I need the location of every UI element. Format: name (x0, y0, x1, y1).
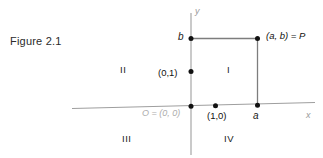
quadrant-label-ii: II (120, 65, 126, 75)
foot-a-label: a (253, 111, 259, 121)
point-unit-y (189, 69, 194, 74)
y-axis-label: y (195, 7, 200, 16)
point-foot-a (255, 103, 260, 108)
quadrant-label-i: I (227, 65, 230, 75)
x-axis-label: x (306, 111, 311, 120)
point-p-label: (a, b) = P (266, 31, 305, 41)
point-p (255, 36, 260, 41)
point-unit-x (213, 103, 218, 108)
point-origin (189, 104, 194, 109)
unit-x-point-label: (1,0) (207, 111, 227, 121)
point-foot-b (189, 36, 194, 41)
quadrant-label-iv: IV (224, 134, 234, 144)
x-axis-line (72, 103, 315, 109)
figure-container: Figure 2.1 y x I II III IV O = (0, 0) (1… (0, 0, 323, 158)
figure-caption: Figure 2.1 (10, 36, 62, 47)
foot-b-label: b (178, 32, 184, 42)
coordinate-plane-diagram (0, 0, 323, 158)
unit-y-point-label: (0,1) (158, 68, 178, 78)
origin-point-label: O = (0, 0) (142, 109, 180, 118)
quadrant-label-iii: III (122, 134, 131, 144)
